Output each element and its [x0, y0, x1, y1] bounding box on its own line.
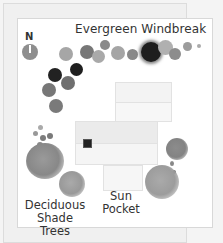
evergreen-tree-icon — [61, 76, 75, 90]
evergreen-tree-icon — [49, 99, 63, 113]
evergreen-tree-icon — [100, 40, 110, 50]
deciduous-label-line2: Shade Trees — [22, 212, 88, 238]
deciduous-tree-icon — [59, 171, 85, 197]
shrub-icon — [170, 161, 174, 166]
evergreen-tree-icon — [197, 44, 201, 48]
evergreen-tree-icon — [111, 46, 125, 60]
evergreen-tree-icon — [183, 42, 192, 51]
evergreen-tree-icon — [48, 68, 62, 82]
evergreen-tree-icon — [42, 83, 56, 97]
house-upper-wing — [115, 82, 172, 103]
deciduous-tree-icon — [166, 138, 188, 160]
evergreen-tree-icon — [92, 50, 105, 63]
sun-pocket-label-line2: Pocket — [100, 203, 142, 216]
evergreen-tree-icon — [70, 63, 83, 76]
evergreen-tree-icon — [169, 48, 181, 60]
evergreen-tree-icon — [59, 47, 73, 61]
compass-needle-icon — [29, 45, 31, 53]
sun-pocket-label: Sun Pocket — [100, 190, 142, 216]
chimney-icon — [83, 139, 92, 148]
shrub-icon — [33, 131, 38, 136]
house-sun-pocket-block — [103, 165, 143, 191]
deciduous-tree-icon — [26, 143, 64, 179]
house-upper-wing-lower — [115, 102, 172, 122]
windbreak-title: Evergreen Windbreak — [75, 22, 206, 36]
deciduous-shade-trees-label: Deciduous Shade Trees — [22, 199, 88, 238]
shrub-icon — [47, 133, 53, 139]
deciduous-tree-icon — [145, 165, 179, 199]
shrub-icon — [40, 135, 46, 141]
compass-north-label: N — [25, 31, 33, 42]
evergreen-tree-icon — [127, 49, 138, 60]
shrub-icon — [38, 125, 43, 130]
